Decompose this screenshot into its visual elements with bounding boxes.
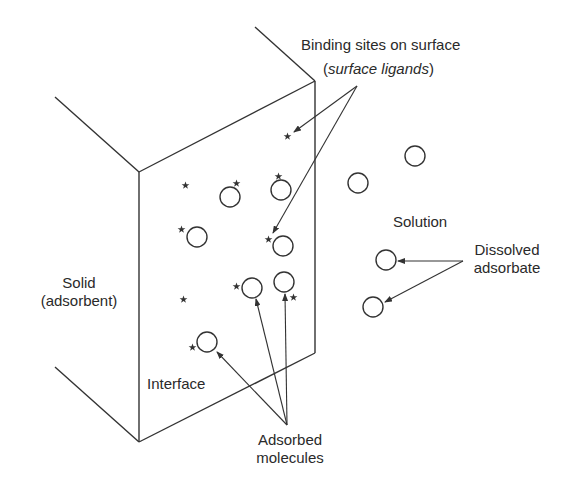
adsorbed-molecules <box>187 180 294 352</box>
solid-line2: (adsorbent) <box>24 292 134 310</box>
binding-sites-label: Binding sites on surface <box>301 36 460 54</box>
binding-sites-line1: Binding sites on surface <box>301 36 460 53</box>
surface-ligands-label: (surface ligands) <box>323 60 434 78</box>
solution-molecules <box>348 146 425 317</box>
paren-close: ) <box>429 60 434 77</box>
pointer-arrows <box>217 86 463 425</box>
adsorbed-molecules-label: Adsorbed molecules <box>245 431 335 467</box>
adsorbed-line1: Adsorbed <box>245 431 335 449</box>
dissolved-adsorbate-label: Dissolved adsorbate <box>465 241 549 277</box>
solid-line1: Solid <box>24 274 134 292</box>
dissolved-line2: adsorbate <box>465 259 549 277</box>
solution-label: Solution <box>393 213 447 231</box>
solid-label: Solid (adsorbent) <box>24 274 134 310</box>
dissolved-line1: Dissolved <box>465 241 549 259</box>
adsorbed-line2: molecules <box>245 449 335 467</box>
interface-label: Interface <box>147 375 205 393</box>
surface-ligands-text: surface ligands <box>328 60 429 77</box>
